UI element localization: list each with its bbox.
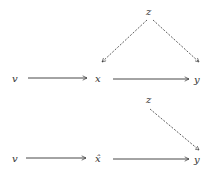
edge-z-y [150,109,199,150]
node-z: z [145,94,152,105]
node-y: y [193,74,200,85]
node-z: z [145,6,152,17]
diagram-bottom: z v x̂ y [12,94,200,165]
node-v: v [12,73,18,84]
node-y: y [193,154,200,165]
node-v: v [12,153,18,164]
node-x: x [95,73,101,84]
node-x-hat: x̂ [95,153,101,164]
edge-z-y [153,20,199,62]
edge-z-x [102,20,147,62]
causal-diagrams: z v x y z v x̂ y [0,0,215,172]
diagram-top: z v x y [12,6,200,85]
